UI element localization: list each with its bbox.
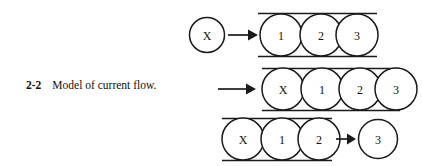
arrow-head-icon bbox=[347, 134, 356, 145]
circle-label: 1 bbox=[319, 83, 325, 97]
conductor-atom: 3 bbox=[336, 14, 378, 56]
conductor-atom: 1 bbox=[301, 68, 343, 110]
conductor-atom: 3 bbox=[375, 68, 417, 110]
diagram-row-exiting: X 1 2 3 bbox=[222, 118, 398, 161]
diagram-row-entering: X 1 2 3 bbox=[218, 68, 417, 111]
arrow-head-icon bbox=[248, 30, 258, 41]
figure-container: 2-2Model of current flow. X 1 bbox=[0, 0, 422, 166]
conductor-atom: 2 bbox=[298, 118, 340, 160]
diagram-row-before-entry: X 1 2 3 bbox=[190, 14, 379, 57]
conductor-atom: X bbox=[222, 118, 264, 160]
arrow-head-icon bbox=[246, 84, 256, 95]
current-flow-diagram: X 1 2 3 bbox=[0, 0, 422, 166]
circle-label: 3 bbox=[375, 133, 381, 147]
conductor-atom: 1 bbox=[261, 118, 303, 160]
conductor-atom: 1 bbox=[260, 14, 302, 56]
circle-label: 3 bbox=[354, 29, 360, 43]
circle-label: 1 bbox=[279, 133, 285, 147]
circle-label: 2 bbox=[357, 83, 363, 97]
free-charge-3-row3: 3 bbox=[359, 120, 398, 159]
circle-label: X bbox=[279, 83, 288, 97]
circle-label: 1 bbox=[278, 29, 284, 43]
flow-arrow-row2 bbox=[218, 84, 256, 95]
circle-label: X bbox=[239, 133, 248, 147]
flow-arrow-row1 bbox=[228, 30, 258, 41]
circle-label: 2 bbox=[316, 133, 322, 147]
circle-label: 2 bbox=[318, 29, 324, 43]
circle-label: 3 bbox=[393, 83, 399, 97]
circle-label: X bbox=[203, 29, 212, 43]
free-charge-x-row1: X bbox=[190, 18, 225, 53]
conductor-atom: X bbox=[262, 68, 304, 110]
